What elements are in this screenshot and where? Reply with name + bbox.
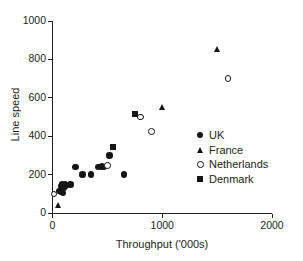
scatter-chart-figure: Line speed 02004006008001000 010002000 T…: [0, 0, 303, 261]
data-point-uk: [121, 171, 127, 177]
data-point-netherlands: [137, 114, 144, 121]
data-point-denmark: [132, 111, 138, 117]
data-point-denmark: [110, 144, 116, 150]
y-tick-text: 800: [28, 53, 46, 64]
y-axis-line: [52, 21, 53, 213]
y-tick-text: 600: [28, 92, 46, 103]
legend-item-netherlands: Netherlands: [196, 157, 296, 172]
x-tick-label: 0: [33, 220, 73, 231]
x-tick-label: 2000: [252, 220, 292, 231]
data-point-netherlands: [104, 162, 111, 169]
legend-item-denmark: Denmark: [196, 172, 296, 187]
legend-label: France: [209, 143, 243, 158]
y-tick-text: 0: [40, 207, 46, 218]
legend-marker-netherlands-icon: [197, 161, 204, 168]
x-tick-mark: [52, 214, 53, 218]
y-axis-label: Line speed: [8, 7, 22, 222]
legend-label: Netherlands: [209, 157, 268, 172]
data-point-france: [159, 104, 165, 110]
data-point-netherlands: [225, 75, 232, 82]
legend-label: UK: [209, 128, 224, 143]
legend-marker-france-icon: [197, 147, 203, 153]
chart-legend: UKFranceNetherlandsDenmark: [196, 128, 296, 186]
legend-marker-uk-icon: [197, 132, 203, 138]
data-point-uk: [72, 164, 78, 170]
data-point-uk: [88, 171, 94, 177]
y-tick-text: 1000: [23, 15, 46, 26]
x-tick-mark: [272, 214, 273, 218]
data-point-france: [214, 46, 220, 52]
x-tick-mark: [162, 214, 163, 218]
data-point-france: [55, 202, 61, 208]
y-tick-text: 200: [28, 169, 46, 180]
legend-item-uk: UK: [196, 128, 296, 143]
x-axis-line: [52, 213, 273, 214]
legend-marker-denmark-icon: [197, 176, 203, 182]
x-axis-label: Throughput ('000s): [52, 238, 272, 251]
y-tick-text: 400: [28, 130, 46, 141]
data-point-uk: [67, 181, 73, 187]
data-point-netherlands: [148, 128, 155, 135]
legend-label: Denmark: [209, 172, 254, 187]
data-point-uk: [79, 171, 85, 177]
x-tick-label: 1000: [142, 220, 182, 231]
data-point-uk: [106, 152, 112, 158]
legend-item-france: France: [196, 143, 296, 158]
data-point-netherlands: [51, 191, 58, 198]
